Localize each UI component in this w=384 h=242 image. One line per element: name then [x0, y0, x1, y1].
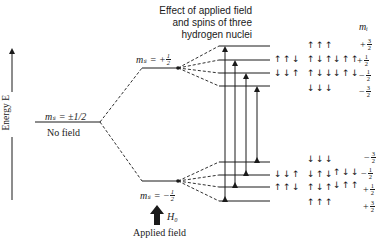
title-line-3: hydrogen nuclei [159, 29, 252, 41]
energy-label-text: Energy E [1, 95, 11, 130]
spin-state: ↓↑↓ [333, 69, 360, 78]
mi-header: mᵢ [359, 22, 368, 32]
spin-state: ↑↓↓ [307, 69, 334, 78]
transition-arrows [225, 49, 257, 199]
spin-state: ↑↑↓ [274, 55, 301, 64]
mi-value: +32 [363, 200, 375, 213]
spin-state: ↓↓↑ [274, 170, 301, 179]
spin-state: ↑↓↑ [307, 183, 334, 192]
spin-state: ↑↑↑ [307, 41, 334, 50]
upper-ms-prefix: mₛ = + [136, 55, 166, 65]
mi-value: −12 [359, 69, 371, 82]
energy-level-diagram: Effect of applied field and spins of thr… [0, 0, 384, 242]
mi-value: −32 [359, 85, 371, 98]
spin-state: ↑↓↑ [307, 55, 334, 64]
no-field-label: No field [47, 128, 80, 138]
spin-state: ↓↓↑ [274, 69, 301, 78]
spin-state: ↓↑↑ [333, 181, 360, 190]
nuclear-levels [219, 46, 270, 201]
lower-ms-fraction: 12 [170, 189, 175, 202]
energy-axis-label: Energy E [2, 95, 12, 130]
diagram-title: Effect of applied field and spins of thr… [159, 5, 252, 41]
lower-ms-label: mₛ = − 12 [140, 189, 175, 202]
h0-label: H₀ [167, 212, 178, 222]
spin-state: ↓↑↓ [307, 170, 334, 179]
title-line-1: Effect of applied field [159, 5, 252, 17]
mi-value: −32 [364, 151, 376, 164]
upper-ms-fraction: 12 [166, 53, 171, 66]
upper-ms-label: mₛ = + 12 [136, 53, 171, 66]
mi-value: +12 [357, 54, 369, 67]
applied-field-arrow-icon [150, 205, 164, 225]
mi-value: +32 [360, 38, 372, 51]
spin-state: ↑↑↑ [307, 198, 334, 207]
lower-ms-prefix: mₛ = − [140, 191, 170, 201]
spin-state: ↓↓↓ [307, 84, 334, 93]
no-field-ms-label: mₛ = ±1/2 [45, 112, 86, 122]
spin-state: ↑↑↓ [274, 183, 301, 192]
title-line-2: and spins of three [159, 17, 252, 29]
applied-field-label: Applied field [133, 228, 186, 238]
mi-value: −12 [361, 167, 373, 180]
mi-value: +12 [363, 183, 375, 196]
spin-state: ↑↓↓ [333, 168, 360, 177]
spin-state: ↓↓↓ [307, 155, 334, 164]
